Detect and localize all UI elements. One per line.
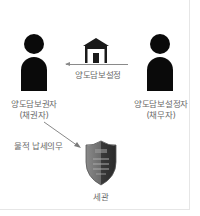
tax-obligation-label: 물적 납세의무 <box>14 139 70 151</box>
customs-label: 세관 <box>81 190 121 202</box>
shield-icon <box>84 140 118 186</box>
